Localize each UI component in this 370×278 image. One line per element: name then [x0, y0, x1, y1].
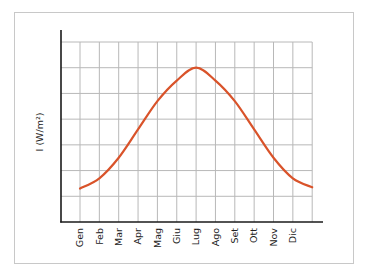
- x-tick-labels: GenFebMarAprMagGiuLugAgoSetOttNovDic: [74, 228, 298, 248]
- x-tick-label: Set: [229, 228, 240, 244]
- x-tick-label: Dic: [287, 228, 298, 243]
- x-tick-label: Apr: [132, 228, 143, 245]
- line-chart: GenFebMarAprMagGiuLugAgoSetOttNovDic I (…: [0, 0, 370, 278]
- x-tick-label: Mag: [152, 228, 163, 248]
- x-tick-label: Mar: [113, 228, 124, 246]
- x-tick-label: Ott: [248, 228, 259, 243]
- x-tick-label: Gen: [74, 228, 85, 247]
- x-tick-label: Nov: [268, 228, 279, 247]
- y-axis-label: I (W/m²): [34, 113, 45, 152]
- x-tick-label: Giu: [171, 228, 182, 244]
- x-tick-label: Ago: [210, 228, 221, 247]
- x-tick-label: Feb: [94, 228, 105, 245]
- grid: [61, 42, 312, 222]
- x-tick-label: Lug: [190, 228, 201, 245]
